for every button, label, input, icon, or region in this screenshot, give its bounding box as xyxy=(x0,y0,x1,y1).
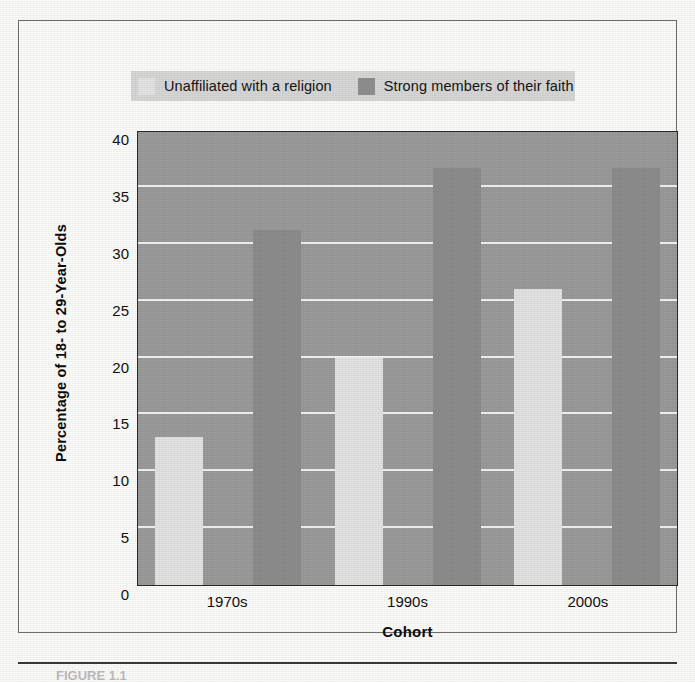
bar-1970s-unaffiliated xyxy=(155,437,203,585)
bar-2000s-strong-faith xyxy=(612,168,660,585)
page-background: Unaffiliated with a religion Strong memb… xyxy=(0,0,695,682)
x-tick-label-1970s: 1970s xyxy=(137,593,317,610)
figure-frame: Unaffiliated with a religion Strong memb… xyxy=(18,20,677,633)
bar-group-2000s xyxy=(497,132,677,585)
x-axis-title: Cohort xyxy=(137,623,678,640)
legend-entry-strong-faith: Strong members of their faith xyxy=(358,78,574,95)
bar-1990s-strong-faith xyxy=(433,168,481,585)
bar-2000s-unaffiliated xyxy=(514,289,562,585)
bar-series-container xyxy=(138,132,677,585)
bottom-divider xyxy=(18,662,677,664)
bar-group-1970s xyxy=(138,132,318,585)
bar-1990s-unaffiliated xyxy=(335,358,383,586)
bar-1970s-strong-faith xyxy=(253,230,301,585)
legend-label-strong-faith: Strong members of their faith xyxy=(384,78,574,94)
figure-caption: FIGURE 1.1 xyxy=(56,668,127,682)
x-tick-label-1990s: 1990s xyxy=(317,593,497,610)
bar-group-1990s xyxy=(318,132,498,585)
y-axis-tick-labels: 0510152025303540 xyxy=(85,131,129,586)
y-axis-title: Percentage of 18- to 29-Year-Olds xyxy=(53,173,69,513)
chart-legend: Unaffiliated with a religion Strong memb… xyxy=(131,71,575,101)
legend-entry-unaffiliated: Unaffiliated with a religion xyxy=(138,78,332,95)
plot-area xyxy=(137,131,678,586)
x-axis-tick-labels: 1970s1990s2000s xyxy=(137,593,678,610)
legend-swatch-light-icon xyxy=(138,78,155,95)
bar-chart: Percentage of 18- to 29-Year-Olds 051015… xyxy=(37,125,695,655)
legend-label-unaffiliated: Unaffiliated with a religion xyxy=(164,78,332,94)
x-tick-label-2000s: 2000s xyxy=(498,593,678,610)
legend-swatch-dark-icon xyxy=(358,78,375,95)
